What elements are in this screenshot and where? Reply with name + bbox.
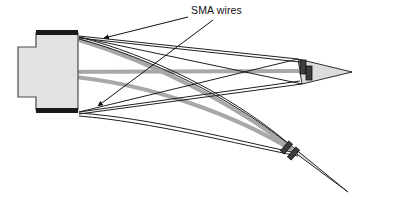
sma-wire-beam-diagram: SMA wires bbox=[0, 0, 394, 202]
figure-canvas: SMA wires bbox=[0, 0, 394, 202]
sma-wires-label: SMA wires bbox=[191, 4, 242, 16]
upper-tip-block-b bbox=[306, 66, 312, 80]
lower-clamp-bar bbox=[36, 108, 78, 113]
upper-clamp-bar bbox=[36, 30, 78, 35]
upper-tip-block-a bbox=[300, 60, 306, 74]
